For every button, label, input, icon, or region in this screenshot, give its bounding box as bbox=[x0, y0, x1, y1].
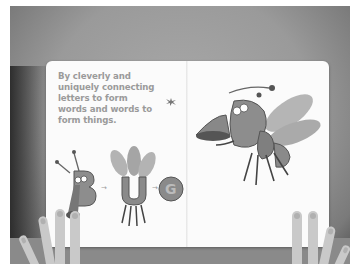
letter-g-icon: G bbox=[159, 177, 183, 201]
open-book: By cleverly and uniquely connecting lett… bbox=[46, 61, 329, 247]
photo-background: By cleverly and uniquely connecting lett… bbox=[10, 6, 350, 264]
bug-character-illustration bbox=[194, 83, 324, 193]
finger bbox=[292, 211, 302, 264]
text-line: uniquely connecting bbox=[58, 82, 168, 93]
svg-text:→: → bbox=[101, 184, 107, 192]
left-page-text: By cleverly and uniquely connecting lett… bbox=[58, 71, 168, 126]
text-line: form things. bbox=[58, 115, 168, 126]
splat-icon bbox=[165, 97, 177, 107]
svg-text:G: G bbox=[165, 181, 177, 197]
text-line: By cleverly and bbox=[58, 71, 168, 82]
finger bbox=[70, 211, 80, 264]
book-spine bbox=[186, 61, 188, 247]
text-line: letters to form bbox=[58, 93, 168, 104]
text-line: words and words to bbox=[58, 104, 168, 115]
finger bbox=[55, 209, 65, 264]
finger bbox=[308, 211, 318, 264]
svg-text:→: → bbox=[152, 184, 158, 192]
